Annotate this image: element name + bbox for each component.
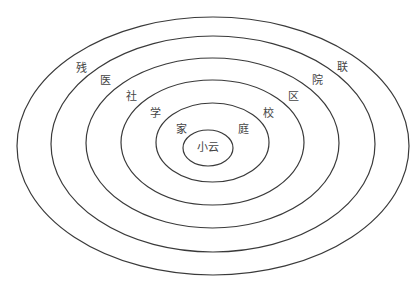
ring-3-left-label: 社 [126, 89, 137, 103]
ring-5-left-label: 残 [76, 61, 87, 75]
center-label: 小云 [197, 141, 219, 154]
ecosystem-diagram: 小云 家 庭 学 校 社 区 医 院 残 联 [0, 0, 419, 295]
ring-3-right-label: 区 [288, 90, 299, 103]
ring-2-left-label: 学 [150, 106, 161, 120]
ring-1-left-label: 家 [176, 122, 187, 136]
ring-4-right-label: 院 [312, 73, 323, 87]
ring-5-right-label: 联 [337, 61, 348, 74]
ring-2-right-label: 校 [263, 106, 274, 120]
ring-4-left-label: 医 [100, 74, 111, 87]
ring-1-right-label: 庭 [238, 122, 249, 136]
